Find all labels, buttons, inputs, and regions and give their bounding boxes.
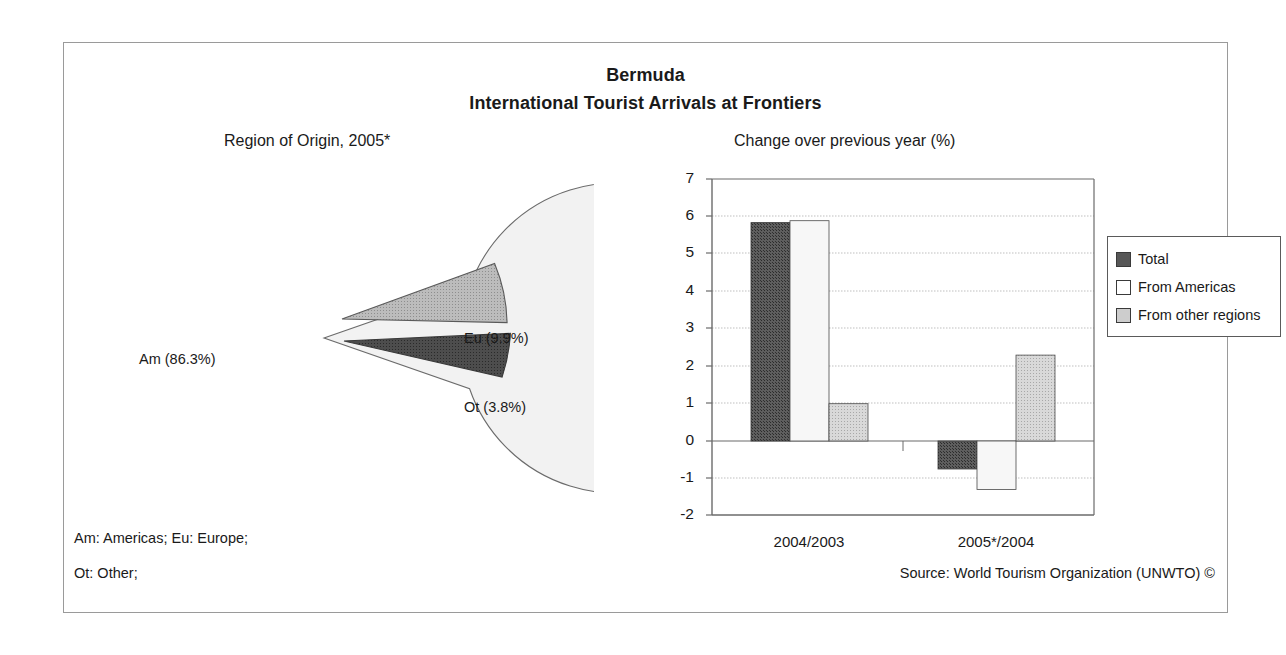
bar-americas-2004-2003 [790, 221, 829, 441]
legend-label-from-americas: From Americas [1138, 279, 1236, 295]
legend-swatch-from-americas-icon [1116, 280, 1131, 295]
y-axis-tick-2: 2 [668, 356, 694, 374]
x-axis-tick-2004-2003: 2004/2003 [749, 533, 869, 550]
bar-other-2004-2003 [829, 404, 868, 441]
bar-americas-2005-2004 [977, 441, 1016, 490]
pie-slice-europe [342, 264, 507, 323]
page-subtitle: International Tourist Arrivals at Fronti… [64, 93, 1227, 114]
legend-item-total[interactable]: Total [1116, 245, 1280, 273]
abbreviation-note-line-1: Am: Americas; Eu: Europe; [74, 530, 248, 546]
pie-label-other: Ot (3.8%) [464, 399, 526, 415]
bar-total-2005-2004 [938, 441, 977, 469]
page-title: Bermuda [64, 65, 1227, 86]
legend-swatch-from-other-regions-icon [1116, 308, 1131, 323]
y-axis-tick-6: 6 [668, 206, 694, 224]
bar-chart: 7 6 5 4 3 2 1 0 -1 -2 2004/2003 2005*/20… [664, 163, 1224, 593]
y-axis-tick-1: 1 [668, 393, 694, 411]
bar-chart-title: Change over previous year (%) [734, 132, 955, 150]
pie-chart: Am (86.3%) Eu (9.9%) Ot (3.8%) [74, 163, 594, 493]
legend-label-total: Total [1138, 251, 1169, 267]
y-axis-tick-0: 0 [668, 431, 694, 449]
pie-label-europe: Eu (9.9%) [464, 330, 528, 346]
bar-chart-svg [664, 163, 1224, 593]
bar-total-2004-2003 [751, 223, 790, 441]
abbreviation-note-line-2: Ot: Other; [74, 565, 138, 581]
y-axis-tick-minus1: -1 [668, 468, 694, 486]
legend-swatch-total-icon [1116, 252, 1131, 267]
pie-chart-svg [74, 163, 594, 493]
x-axis-tick-2005-2004: 2005*/2004 [936, 533, 1056, 550]
y-axis-tick-4: 4 [668, 281, 694, 299]
source-note: Source: World Tourism Organization (UNWT… [900, 565, 1215, 581]
bar-chart-legend: Total From Americas From other regions [1107, 236, 1281, 337]
legend-label-from-other-regions: From other regions [1138, 307, 1261, 323]
pie-label-americas: Am (86.3%) [139, 351, 216, 367]
bar-other-2005-2004 [1016, 355, 1055, 441]
y-axis-tick-7: 7 [668, 169, 694, 187]
chart-figure-frame: Bermuda International Tourist Arrivals a… [63, 42, 1228, 613]
y-axis-tick-5: 5 [668, 243, 694, 261]
legend-item-from-americas[interactable]: From Americas [1116, 273, 1280, 301]
pie-chart-title: Region of Origin, 2005* [224, 132, 390, 150]
y-axis-tick-minus2: -2 [668, 505, 694, 523]
legend-item-from-other-regions[interactable]: From other regions [1116, 301, 1280, 329]
y-axis-tick-3: 3 [668, 318, 694, 336]
